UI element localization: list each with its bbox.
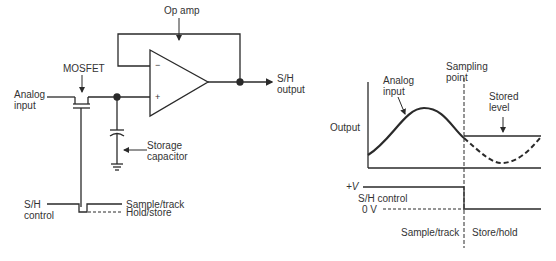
control-signal [47, 204, 122, 212]
sh-control-label-1: S/H [24, 199, 41, 210]
hold-store-label: Hold/store [126, 207, 172, 218]
store-hold-phase-label: Store/hold [472, 227, 518, 238]
stored-level-label-1: Stored [489, 91, 518, 102]
analog-input-label-2: input [14, 100, 36, 111]
stored-level-label-2: level [489, 102, 510, 113]
sh-output-label-2: output [277, 84, 305, 95]
analog-input-pointer [398, 97, 405, 114]
analog-input-continuation [464, 138, 540, 163]
sample-track-phase-label: Sample/track [401, 227, 459, 238]
ground-icon [111, 164, 123, 170]
sh-control-label-2: control [24, 210, 54, 221]
analog-input-label-1: Analog [14, 89, 45, 100]
analog-input-plot-label-2: input [383, 86, 405, 97]
plus-sign: + [155, 92, 160, 103]
sh-output-label-1: S/H [277, 73, 294, 84]
minus-sign: − [155, 60, 160, 71]
waveform-plot [363, 78, 541, 248]
op-amp-label: Op amp [164, 5, 200, 16]
mosfet-symbol [73, 97, 90, 207]
analog-input-plot-label-1: Analog [383, 75, 414, 86]
sampling-point-label-1: Sampling [446, 61, 488, 72]
plus-v-label: +V [346, 181, 359, 192]
mosfet-label: MOSFET [63, 63, 105, 74]
sample-hold-diagram [0, 0, 556, 261]
feedback-loop [118, 34, 240, 82]
capacitor-label-2: capacitor [147, 151, 188, 162]
circuit-schematic [47, 18, 272, 212]
sampling-point-label-2: point [446, 72, 468, 83]
analog-input-curve [368, 108, 464, 155]
capacitor-label-1: Storage [147, 140, 182, 151]
zero-v-label: 0 V [362, 204, 377, 215]
output-axis-label: Output [330, 122, 360, 133]
sh-control-plot-label: S/H control [358, 193, 407, 204]
junction-node-output [237, 79, 243, 85]
